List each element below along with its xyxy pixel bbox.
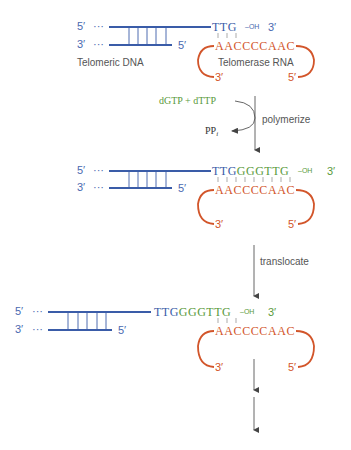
overhang-sequence: TTGGGGTTG <box>212 164 289 178</box>
dna-top-5prime: 5′ <box>77 164 85 176</box>
rna-template-sequence: AACCCCAAC <box>215 183 295 197</box>
dna-bottom-dots: ··· <box>93 38 104 50</box>
rna-5prime: 5′ <box>288 218 296 230</box>
rna-3prime: 3′ <box>215 71 223 83</box>
dna-bottom-5prime: 5′ <box>178 39 186 51</box>
rna-left-loop <box>198 331 214 367</box>
hydroxyl-end: –OH <box>298 167 312 174</box>
dna-bottom-5prime: 5′ <box>118 324 126 336</box>
dna-bottom-3prime: 3′ <box>77 38 85 50</box>
panel-elongated: 5′ ··· 3′ ··· 5′ TTGGGGTTG –OH 3′ AACC <box>77 164 335 230</box>
dna-top-dots: ··· <box>32 305 43 317</box>
dna-bottom-dots: ··· <box>32 323 43 335</box>
rna-3prime: 3′ <box>215 361 223 373</box>
dna-top-5prime: 5′ <box>15 305 23 317</box>
rna-5prime: 5′ <box>288 361 296 373</box>
dna-top-dots: ··· <box>93 164 104 176</box>
overhang-3prime: 3′ <box>268 21 276 33</box>
hydroxyl-end: –OH <box>245 23 259 30</box>
dna-bottom-3prime: 3′ <box>15 323 23 335</box>
rna-right-loop <box>296 190 314 224</box>
overhang-sequence: TTGGGGTTG <box>154 305 231 319</box>
step-polymerize: dGTP + dTTP PPi polymerize <box>159 95 311 150</box>
dna-bottom-dots: ··· <box>93 181 104 193</box>
base-pair-rungs <box>129 171 166 188</box>
overhang-sequence: TTG <box>212 20 237 34</box>
ppi-label: PPi <box>205 125 218 138</box>
overhang-3prime: 3′ <box>268 306 276 318</box>
panel-initial: 5′ ··· 3′ ··· 5′ TTG –OH 3′ AACCCCAAC 3′… <box>77 20 314 83</box>
translocate-label: translocate <box>260 256 309 267</box>
substrates-label: dGTP + dTTP <box>159 95 216 106</box>
rna-template-sequence: AACCCCAAC <box>215 324 295 338</box>
dna-top-dots: ··· <box>93 20 104 32</box>
polymerize-label: polymerize <box>262 114 311 125</box>
telomerase-diagram: 5′ ··· 3′ ··· 5′ TTG –OH 3′ AACCCCAAC 3′… <box>0 0 351 450</box>
rna-right-loop <box>296 46 314 77</box>
rna-template-sequence: AACCCCAAC <box>215 39 295 53</box>
base-pair-rungs <box>129 27 166 45</box>
telomeric-dna-label: Telomeric DNA <box>77 57 144 68</box>
panel-translocated: 5′ ··· 3′ ··· 5′ TTGGGGTTG –OH 3′ AACCCC… <box>15 305 314 373</box>
rna-left-loop <box>198 46 214 77</box>
rna-right-loop <box>296 331 314 367</box>
overhang-3prime: 3′ <box>327 165 335 177</box>
hydroxyl-end: –OH <box>240 308 254 315</box>
step-translocate: translocate <box>254 245 309 296</box>
rna-3prime: 3′ <box>215 218 223 230</box>
rna-5prime: 5′ <box>288 71 296 83</box>
dna-bottom-3prime: 3′ <box>77 181 85 193</box>
curved-reaction-arrow <box>232 101 255 131</box>
dna-bottom-5prime: 5′ <box>178 182 186 194</box>
base-pair-rungs <box>68 312 106 330</box>
rna-left-loop <box>198 190 214 224</box>
telomerase-rna-label: Telomerase RNA <box>218 57 294 68</box>
dna-top-5prime: 5′ <box>77 20 85 32</box>
